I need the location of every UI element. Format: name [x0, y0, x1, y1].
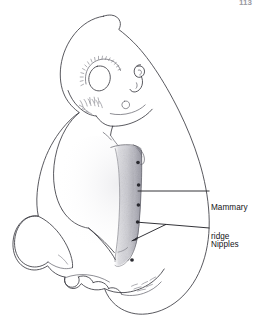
page-number: 113: [239, 0, 252, 7]
nipple-dot: [136, 161, 140, 164]
leader-lines: [132, 191, 210, 241]
tail-hatching: [132, 277, 156, 291]
leader-nipples-fork-upper: [137, 222, 166, 224]
eye-hatching: [80, 56, 121, 86]
tail-region: [105, 269, 164, 296]
nipple-dot: [130, 258, 134, 262]
label-nipples: Nipples: [211, 221, 239, 269]
leader-nipples-main: [166, 224, 210, 228]
figure-container: Mammary ridge Nipples 113: [0, 0, 264, 336]
head-region: [68, 91, 152, 136]
otic-vesicle: [130, 65, 145, 92]
ridge-stipple: [116, 149, 142, 265]
label-mammary-ridge-line1: Mammary: [211, 203, 248, 213]
eye: [80, 56, 121, 91]
jaw-hatching: [79, 97, 102, 114]
nipple-dot: [137, 203, 141, 206]
embryo-illustration: [0, 0, 264, 336]
nasal-pit: [122, 101, 130, 109]
nipple-dot: [137, 183, 141, 186]
label-nipples-line1: Nipples: [211, 240, 239, 250]
